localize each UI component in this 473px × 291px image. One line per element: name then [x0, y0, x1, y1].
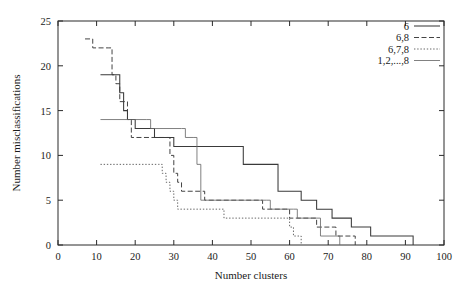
y-tick-label: 10 [41, 150, 52, 161]
x-axis-title: Number clusters [215, 269, 287, 281]
y-tick-label: 5 [46, 195, 51, 206]
legend-label-1: 6 [404, 21, 409, 32]
legend-label-2: 6,8 [396, 32, 409, 43]
x-tick-label: 100 [436, 251, 452, 262]
x-tick-label: 50 [246, 251, 257, 262]
x-tick-label: 20 [130, 251, 141, 262]
misclassification-line-chart: 0102030405060708090100 0510152025 66,86,… [0, 0, 473, 291]
x-tick-label: 40 [207, 251, 218, 262]
x-tick-label: 60 [284, 251, 295, 262]
chart-container: 0102030405060708090100 0510152025 66,86,… [0, 0, 473, 291]
x-tick-label: 80 [362, 251, 373, 262]
x-tick-label: 30 [169, 251, 180, 262]
legend-label-3: 6,7,8 [388, 44, 409, 55]
y-tick-label: 0 [46, 240, 51, 251]
y-axis-title: Number misclassifications [10, 74, 22, 191]
legend-label-4: 1,2,...,8 [378, 55, 410, 66]
y-tick-label: 15 [41, 106, 52, 117]
x-tick-label: 0 [55, 251, 60, 262]
x-tick-label: 70 [323, 251, 334, 262]
y-tick-label: 25 [41, 16, 52, 27]
y-tick-label: 20 [41, 61, 52, 72]
x-tick-label: 10 [91, 251, 102, 262]
x-tick-label: 90 [400, 251, 411, 262]
